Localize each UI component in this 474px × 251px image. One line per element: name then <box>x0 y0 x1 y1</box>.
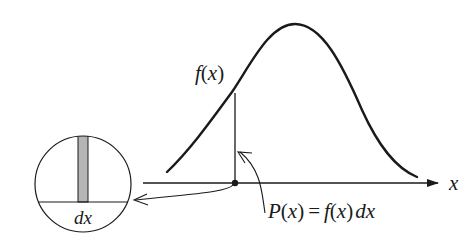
magnifier-dx-label: dx <box>74 207 93 228</box>
equation-pointer-arrowhead <box>238 152 252 163</box>
magnifier-pointer-arrow <box>136 185 233 200</box>
pdf-diagram: dx f(x) x P(x)=f(x)dx <box>0 0 474 251</box>
probability-equation: P(x)=f(x)dx <box>267 199 376 223</box>
density-curve <box>167 24 417 177</box>
magnifier: dx <box>35 130 131 232</box>
dx-strip <box>78 130 88 202</box>
curve-label: f(x) <box>195 61 224 85</box>
axis-label-x: x <box>448 171 459 195</box>
